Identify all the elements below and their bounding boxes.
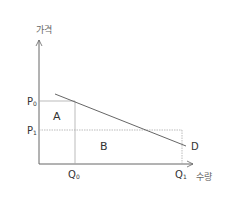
demand-curve-label: D xyxy=(191,141,199,152)
region-a-label: A xyxy=(53,110,61,123)
region-b-label: B xyxy=(100,140,108,153)
demand-diagram: 가격 수량 P0 P1 Q0 Q1 D A B xyxy=(0,0,242,208)
y-axis-label: 가격 xyxy=(36,24,52,35)
p0-label: P0 xyxy=(27,96,37,107)
x-axis-label: 수량 xyxy=(196,171,212,182)
p1-label: P1 xyxy=(27,125,37,136)
q1-label: Q1 xyxy=(175,169,187,180)
q0-label: Q0 xyxy=(68,169,80,180)
